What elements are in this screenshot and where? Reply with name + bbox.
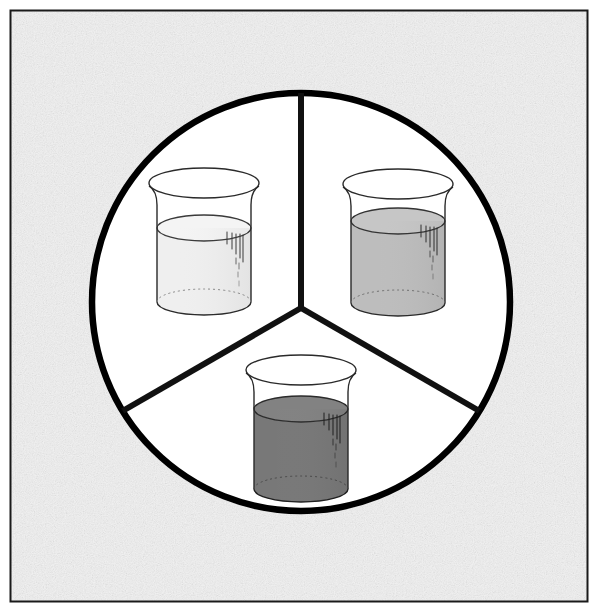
beaker-upper-left-glass-shading <box>157 228 251 315</box>
figure-stage: Three beakers in a circle divided into t… <box>0 0 600 615</box>
beaker-upper-right-glass-shading <box>351 221 445 316</box>
beaker-upper-left[interactable]: Beaker 1 <box>149 168 259 318</box>
beaker-lower-center-glass-shading <box>254 409 348 502</box>
beakers-sector-figure: Three beakers in a circle divided into t… <box>0 0 600 615</box>
beaker-upper-left-rim <box>149 168 259 198</box>
